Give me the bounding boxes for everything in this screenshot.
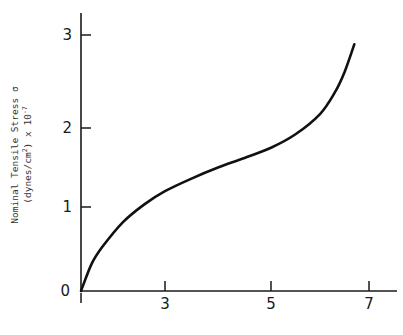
x-ticks: 357	[81, 281, 374, 313]
y-tick-label: 0	[60, 282, 70, 300]
y-tick-label: 1	[62, 198, 72, 216]
y-axis-label: Nominal Tensile Stress σ (dynes/cm2) x 1…	[4, 40, 38, 270]
y-axis-label-line2: (dynes/cm2) x 10-7	[20, 86, 33, 223]
y-tick-label: 2	[62, 119, 72, 137]
y-axis-label-line1: Nominal Tensile Stress σ	[9, 86, 20, 223]
y-tick-label: 3	[62, 26, 72, 44]
x-tick-label: 7	[364, 295, 374, 313]
data-curve	[81, 44, 354, 291]
y-ticks: 0123	[60, 26, 91, 300]
x-tick-label: 3	[160, 295, 170, 313]
stress-strain-chart: 0123 357	[0, 0, 403, 335]
x-tick-label: 5	[266, 295, 276, 313]
